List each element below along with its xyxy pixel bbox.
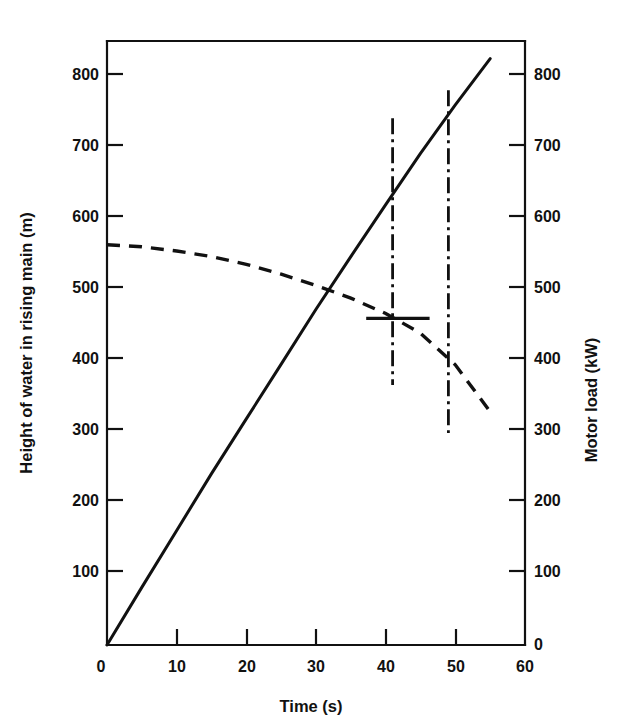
y-axis-ticks-right [509,74,525,571]
y-axis-ticklabels-left: 800 700 600 500 400 300 200 100 [72,66,99,580]
y-ticklabel-400: 400 [72,350,99,367]
y2-ticklabel-600: 600 [534,208,561,225]
y-ticklabel-500: 500 [72,279,99,296]
y2-ticklabel-800: 800 [534,66,561,83]
y-ticklabel-100: 100 [72,563,99,580]
annotation-markers [366,90,448,433]
y-ticklabel-200: 200 [72,492,99,509]
y-ticklabel-700: 700 [72,137,99,154]
y2-ticklabel-200: 200 [534,492,561,509]
x-axis-title: Time (s) [280,697,343,715]
series-motor-load [107,245,490,412]
x-ticklabel-30: 30 [307,658,325,675]
y-axis-ticks-left [107,74,123,571]
x-axis-ticks [177,629,456,645]
y-axis-title-left: Height of water in rising main (m) [17,212,35,473]
y2-ticklabel-700: 700 [534,137,561,154]
y2-ticklabel-400: 400 [534,350,561,367]
y2-ticklabel-100: 100 [534,563,561,580]
y2-ticklabel-500: 500 [534,279,561,296]
y-axis-ticklabels-right: 800 700 600 500 400 300 200 100 0 [534,66,561,653]
plot-axes [107,41,525,645]
y2-ticklabel-300: 300 [534,421,561,438]
y-ticklabel-600: 600 [72,208,99,225]
x-ticklabel-0: 0 [97,658,106,675]
chart-canvas: 800 700 600 500 400 300 200 100 800 700 … [0,0,623,724]
y-axis-title-right: Motor load (kW) [582,338,600,463]
x-axis-ticklabels: 0 10 20 30 40 50 60 [97,658,534,675]
x-ticklabel-40: 40 [377,658,395,675]
x-ticklabel-20: 20 [238,658,256,675]
y-ticklabel-800: 800 [72,66,99,83]
x-ticklabel-50: 50 [447,658,465,675]
x-ticklabel-60: 60 [516,658,534,675]
series-height-of-water [107,59,490,645]
y-ticklabel-300: 300 [72,421,99,438]
x-ticklabel-10: 10 [168,658,186,675]
chart-figure: 800 700 600 500 400 300 200 100 800 700 … [0,0,623,724]
y2-ticklabel-0: 0 [534,636,543,653]
